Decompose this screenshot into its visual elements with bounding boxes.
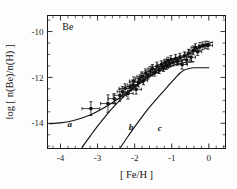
data-point-marker: [126, 92, 129, 95]
data-point-marker: [164, 61, 167, 64]
data-point-marker: [124, 87, 127, 90]
x-tick-label: -2: [131, 153, 139, 163]
plot-frame: [48, 16, 226, 149]
curve-label-a: a: [68, 119, 73, 129]
data-point-marker: [155, 65, 158, 68]
y-axis-tick-labels: -10-12-14: [32, 27, 44, 129]
x-tick-label: -3: [94, 153, 102, 163]
data-point-marker: [174, 57, 177, 60]
data-point-marker: [158, 68, 161, 71]
axes-frame: [48, 16, 226, 149]
x-axis-label: [ Fe/H ]: [120, 169, 153, 180]
curve-label-b: b: [129, 122, 134, 132]
data-point-marker: [183, 54, 186, 57]
data-point-marker: [129, 85, 132, 88]
data-point-marker: [178, 56, 181, 59]
data-point-marker: [141, 75, 144, 78]
data-point-marker: [185, 58, 188, 61]
data-point-marker: [190, 56, 193, 59]
data-point-marker: [187, 52, 190, 55]
data-point-marker: [168, 62, 171, 65]
data-point-marker: [181, 63, 184, 66]
y-tick-label: -12: [32, 73, 44, 83]
data-point-marker: [192, 49, 195, 52]
data-point-marker: [196, 50, 199, 53]
y-axis-label: log [ n(Be)/n(H) ]: [4, 45, 16, 120]
data-point-marker: [165, 64, 168, 67]
data-point-marker: [167, 59, 170, 62]
data-point-marker: [198, 45, 201, 48]
data-point-marker: [207, 44, 210, 47]
x-axis-tick-labels: -4-3-2-10: [57, 153, 212, 163]
data-point-marker: [162, 66, 165, 69]
x-tick-label: -1: [168, 153, 176, 163]
data-point-marker: [135, 88, 138, 91]
data-point-marker: [160, 63, 163, 66]
data-point-marker: [176, 60, 179, 63]
data-point-marker: [169, 58, 172, 61]
data-point-marker: [89, 107, 92, 110]
data-point-marker: [131, 83, 134, 86]
y-tick-label: -10: [32, 27, 44, 37]
y-tick-label: -14: [32, 118, 44, 128]
data-point-marker: [201, 44, 204, 47]
plot-canvas: -4-3-2-10 -10-12-14 abc Be [ Fe/H ] log …: [0, 0, 237, 189]
data-point-marker: [146, 74, 149, 77]
model-curve-b: [82, 62, 194, 148]
data-point-marker: [172, 61, 175, 64]
data-point-marker: [113, 97, 116, 100]
data-point-marker: [151, 67, 154, 70]
data-point-marker: [106, 102, 109, 105]
y-axis-ticks: [48, 20, 226, 146]
x-tick-label: -4: [57, 153, 65, 163]
data-point-marker: [194, 46, 197, 49]
data-point-marker: [137, 81, 140, 84]
data-point-marker: [153, 71, 156, 74]
data-point-marker: [132, 80, 135, 83]
curve-labels: abc: [68, 119, 162, 132]
data-point-marker: [121, 90, 124, 93]
beryllium-abundance-figure: -4-3-2-10 -10-12-14 abc Be [ Fe/H ] log …: [0, 0, 237, 189]
data-point-marker: [142, 79, 145, 82]
data-point-marker: [118, 94, 121, 97]
x-tick-label: 0: [207, 153, 212, 163]
panel-annotation-be: Be: [62, 21, 74, 32]
curve-label-c: c: [158, 123, 162, 133]
